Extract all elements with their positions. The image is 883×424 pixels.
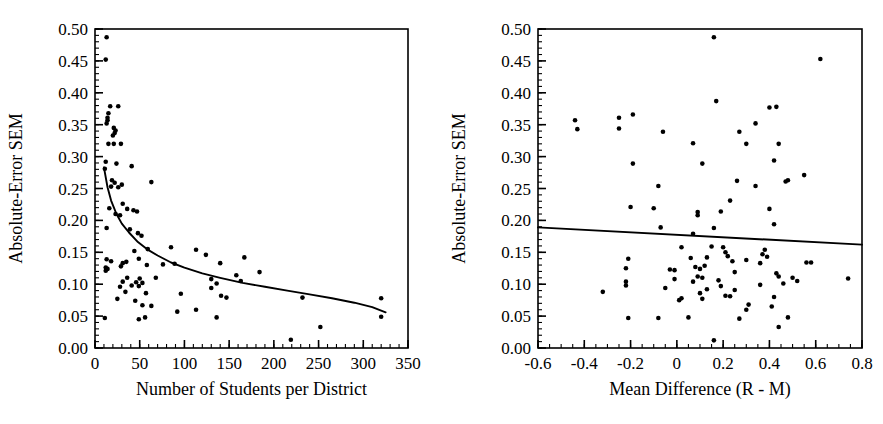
y-tick-label: 0.05: [501, 307, 531, 326]
data-point: [712, 35, 717, 40]
data-point: [144, 291, 149, 296]
x-tick-label: 150: [216, 354, 242, 373]
data-point: [698, 267, 703, 272]
data-point: [289, 337, 294, 342]
data-point: [804, 260, 809, 265]
data-point: [300, 295, 305, 300]
data-point: [737, 129, 742, 134]
data-point: [781, 281, 786, 286]
data-point: [149, 180, 154, 185]
x-tick-label: -0.2: [617, 354, 644, 373]
data-point: [737, 316, 742, 321]
data-point: [120, 202, 125, 207]
data-point: [106, 111, 111, 116]
plot-frame: [538, 29, 862, 348]
y-tick-label: 0.45: [58, 52, 88, 71]
x-tick-label: 350: [395, 354, 421, 373]
data-point: [169, 245, 174, 250]
data-point: [143, 315, 148, 320]
data-point: [774, 105, 779, 110]
data-point: [709, 244, 714, 249]
data-point: [790, 276, 795, 281]
data-point: [767, 207, 772, 212]
data-point: [617, 115, 622, 120]
data-point: [116, 104, 121, 109]
data-point: [758, 261, 763, 266]
data-point: [114, 161, 119, 166]
plot-frame: [95, 29, 408, 348]
data-point: [104, 121, 109, 126]
data-point: [772, 158, 777, 163]
data-point: [234, 273, 239, 278]
data-point: [686, 315, 691, 320]
data-point: [125, 207, 130, 212]
data-point: [109, 259, 114, 264]
fit-line-linear: [538, 227, 862, 244]
y-axis-title: Absolute-Error SEM: [449, 113, 469, 263]
data-point: [786, 315, 791, 320]
y-tick-label: 0.35: [501, 116, 531, 135]
data-point: [128, 227, 133, 232]
data-point: [695, 213, 700, 218]
data-point: [137, 284, 142, 289]
data-point: [103, 57, 108, 62]
data-point: [776, 325, 781, 330]
data-point: [723, 250, 728, 255]
x-tick-label: 0.2: [713, 354, 734, 373]
data-point: [224, 295, 229, 300]
data-point: [758, 283, 763, 288]
data-point: [204, 253, 209, 258]
data-point: [672, 268, 677, 273]
y-tick-label: 0.00: [58, 339, 88, 358]
data-point: [672, 277, 677, 282]
data-point: [145, 263, 150, 268]
data-point: [116, 185, 121, 190]
data-point: [119, 264, 124, 269]
data-point: [119, 142, 124, 147]
data-point: [104, 35, 109, 40]
data-point: [238, 279, 243, 284]
y-tick-label: 0.00: [501, 339, 531, 358]
data-point: [712, 338, 717, 343]
data-point: [700, 297, 705, 302]
data-point: [668, 267, 673, 272]
x-tick-label: 100: [172, 354, 198, 373]
y-tick-label: 0.15: [58, 243, 88, 262]
y-tick-label: 0.30: [501, 148, 531, 167]
data-point: [802, 173, 807, 178]
data-point: [123, 290, 128, 295]
data-point: [134, 280, 139, 285]
data-point: [601, 290, 606, 295]
data-point: [617, 126, 622, 131]
data-point: [705, 255, 710, 260]
data-point: [723, 293, 728, 298]
data-point: [137, 276, 142, 281]
data-point: [846, 276, 851, 281]
data-point: [154, 276, 159, 281]
data-point: [700, 161, 705, 166]
data-point: [628, 205, 633, 210]
data-point: [760, 252, 765, 257]
x-tick-label: 0.8: [851, 354, 872, 373]
data-point: [679, 245, 684, 250]
data-point: [172, 261, 177, 266]
data-point: [575, 127, 580, 132]
data-point: [769, 304, 774, 309]
data-point: [161, 262, 166, 267]
y-tick-label: 0.45: [501, 52, 531, 71]
data-point: [700, 276, 705, 281]
y-tick-label: 0.30: [58, 148, 88, 167]
data-point: [379, 314, 384, 319]
y-tick-label: 0.20: [58, 211, 88, 230]
data-point: [661, 129, 666, 134]
x-tick-label: 300: [351, 354, 377, 373]
data-point: [735, 179, 740, 184]
data-point: [688, 256, 693, 261]
y-tick-label: 0.25: [58, 180, 88, 199]
data-point: [712, 226, 717, 231]
y-tick-label: 0.40: [501, 84, 531, 103]
data-point: [115, 297, 120, 302]
data-point: [218, 261, 223, 266]
data-point: [651, 206, 656, 211]
data-point: [730, 259, 735, 264]
